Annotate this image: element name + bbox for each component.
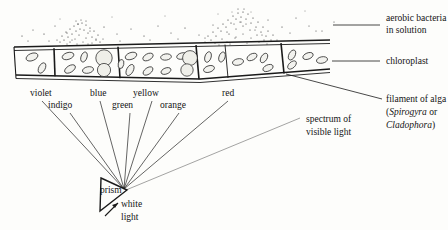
genus-spirogyra: Spirogyra [389,107,427,117]
label-chloroplast: chloroplast [386,56,429,66]
spectrum-rays [42,101,228,189]
color-label-blue: blue [90,88,106,98]
aerobic-bacteria-line1: aerobic bacteria [386,13,447,23]
engelmann-experiment-diagram: aerobic bacteria in solution chloroplast… [0,0,448,230]
color-label-indigo: indigo [48,100,73,110]
label-aerobic-bacteria: aerobic bacteria in solution [386,13,447,35]
bacteria-cluster-red [205,9,278,46]
spectrum-of-visible-light-leader [126,118,300,190]
color-label-green: green [112,100,133,110]
label-filament-of-alga: filament of alga (Spirogyra or Cladophor… [386,94,447,131]
or-text: or [427,107,438,117]
spectrum-caption-line2: visible light [306,127,351,137]
white-light-line2: light [121,212,139,222]
genus-cladophora: Cladophora [386,120,432,130]
spectrum-caption-line1: spectrum of [306,114,352,124]
color-label-violet: violet [30,88,52,98]
prism-label: prism [100,185,122,195]
white-light-line1: white [121,199,142,209]
aerobic-bacteria-stipple [21,9,334,46]
aerobic-bacteria-line2: in solution [386,25,427,35]
color-label-orange: orange [160,100,186,110]
color-label-yellow: yellow [133,88,159,98]
filament-label-line2: (Spirogyra or [386,107,438,118]
color-label-red: red [222,88,234,98]
paren-close: ) [432,120,435,131]
bacteria-cluster-blue-violet [57,20,104,45]
chloroplast-label: chloroplast [386,56,429,66]
spectrum-color-labels: violet indigo blue green yellow orange r… [30,88,234,110]
right-leader-lines [286,25,382,99]
filament-label-line3: Cladophora) [386,120,435,131]
algal-filament [14,40,330,83]
filament-label-line1: filament of alga [386,94,447,104]
